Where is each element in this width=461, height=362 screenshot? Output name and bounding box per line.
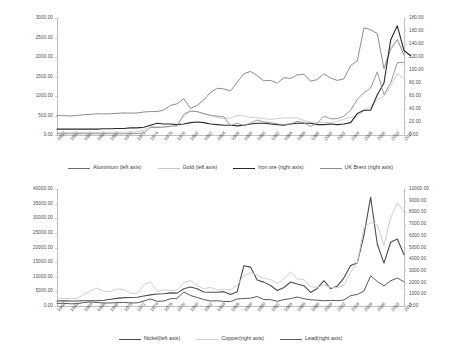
- legend-item[interactable]: Gold (left axis): [158, 165, 218, 170]
- series-line: [57, 203, 404, 299]
- series-line: [57, 62, 404, 134]
- legend-label: Aluminium (left axis): [93, 165, 142, 170]
- legend-item[interactable]: UK Brent (right axis): [320, 165, 394, 170]
- legend-top: Aluminium (left axis)Gold (left axis)Iro…: [0, 162, 461, 174]
- legend-bottom: Nickel(left axis)Copper(right axis)Lead(…: [0, 333, 461, 345]
- legend-swatch-line-icon: [320, 168, 342, 169]
- series-line: [57, 28, 404, 116]
- legend-swatch-line-icon: [233, 168, 255, 169]
- legend-label: Nickel(left axis): [144, 336, 181, 341]
- legend-label: Lead(right axis): [305, 336, 342, 341]
- plot-area-top: 0.00500.001000.001500.002000.002500.0030…: [0, 0, 461, 142]
- chart-panel-top: 0.00500.001000.001500.002000.002500.0030…: [0, 0, 461, 181]
- legend-item[interactable]: Aluminium (left axis): [68, 165, 142, 170]
- series-line: [57, 197, 404, 301]
- legend-item[interactable]: Copper(right axis): [196, 336, 264, 341]
- legend-label: UK Brent (right axis): [345, 165, 394, 170]
- legend-item[interactable]: Lead(right axis): [280, 336, 342, 341]
- legend-label: Iron ore (right axis): [258, 165, 303, 170]
- legend-swatch-line-icon: [158, 168, 180, 169]
- legend-item[interactable]: Iron ore (right axis): [233, 165, 303, 170]
- series-layer: [0, 181, 461, 331]
- legend-swatch-line-icon: [196, 339, 218, 340]
- series-layer: [0, 0, 461, 150]
- legend-swatch-line-icon: [280, 339, 302, 340]
- series-line: [57, 74, 404, 133]
- chart-panel-bottom: 0.005000.0010000.0015000.0020000.0025000…: [0, 181, 461, 362]
- legend-label: Copper(right axis): [221, 336, 264, 341]
- legend-label: Gold (left axis): [183, 165, 218, 170]
- legend-swatch-line-icon: [119, 339, 141, 340]
- plot-area-bottom: 0.005000.0010000.0015000.0020000.0025000…: [0, 181, 461, 323]
- legend-swatch-line-icon: [68, 168, 90, 169]
- legend-item[interactable]: Nickel(left axis): [119, 336, 181, 341]
